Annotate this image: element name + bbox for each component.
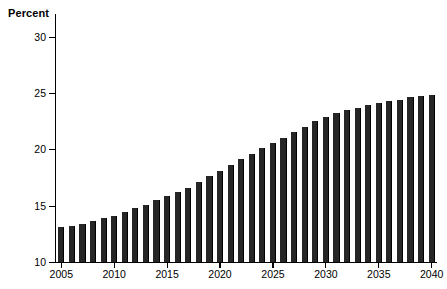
bar xyxy=(270,143,276,262)
bar xyxy=(90,221,96,262)
x-axis-tick-label: 2030 xyxy=(306,269,346,280)
bar xyxy=(132,208,138,262)
bar xyxy=(164,196,170,263)
bar xyxy=(79,224,85,262)
bar xyxy=(407,97,413,262)
bar xyxy=(365,105,371,262)
bar xyxy=(376,103,382,262)
bar xyxy=(122,212,128,262)
bar xyxy=(280,138,286,262)
bar xyxy=(355,108,361,262)
bar xyxy=(312,121,318,262)
bar xyxy=(386,101,392,262)
bar xyxy=(185,188,191,262)
x-axis-tick-label: 2010 xyxy=(94,269,134,280)
bar xyxy=(153,200,159,262)
y-axis-tick xyxy=(49,206,55,207)
x-axis-tick-label: 2005 xyxy=(41,269,81,280)
bar xyxy=(238,159,244,262)
bar xyxy=(259,148,265,262)
y-axis-tick-label: 10 xyxy=(2,257,46,267)
bar xyxy=(333,113,339,262)
x-axis-tick-label: 2020 xyxy=(200,269,240,280)
bar xyxy=(323,117,329,262)
x-axis-tick-label: 2025 xyxy=(253,269,293,280)
x-axis-tick-label: 2040 xyxy=(412,269,447,280)
bar xyxy=(69,226,75,262)
bar xyxy=(143,205,149,262)
bar xyxy=(175,192,181,262)
bar xyxy=(101,218,107,262)
bar xyxy=(249,154,255,262)
bar xyxy=(196,182,202,262)
bar xyxy=(429,95,435,262)
bar xyxy=(302,127,308,262)
bars-layer xyxy=(56,14,437,262)
bar xyxy=(58,227,64,262)
bar xyxy=(206,176,212,262)
y-axis-tick-label: 15 xyxy=(2,201,46,211)
y-axis-tick xyxy=(49,93,55,94)
bar xyxy=(291,132,297,262)
bar xyxy=(228,165,234,262)
x-axis-tick-label: 2035 xyxy=(359,269,399,280)
x-axis-line xyxy=(55,262,437,263)
bar xyxy=(397,100,403,262)
y-axis-tick xyxy=(49,149,55,150)
x-axis-tick-label: 2015 xyxy=(147,269,187,280)
bar xyxy=(418,96,424,262)
y-axis-tick xyxy=(49,37,55,38)
y-axis-tick-label: 20 xyxy=(2,144,46,154)
bar xyxy=(344,110,350,262)
bar xyxy=(111,216,117,262)
bar xyxy=(217,171,223,262)
y-axis-tick-label: 25 xyxy=(2,88,46,98)
y-axis-tick xyxy=(49,262,55,263)
bar-chart: Percent 1015202530 200520102015202020252… xyxy=(0,0,447,289)
y-axis-unit-label: Percent xyxy=(8,7,49,19)
y-axis-tick-label: 30 xyxy=(2,32,46,42)
